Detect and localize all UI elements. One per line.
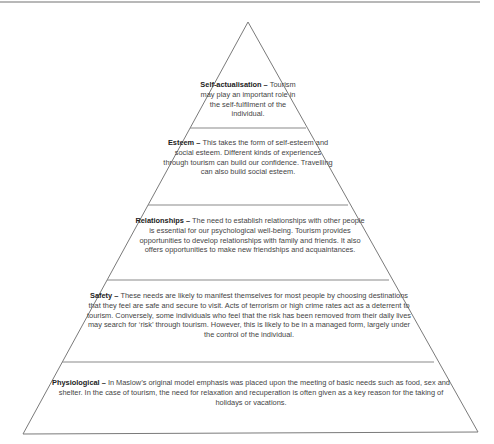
tier-relationships: Relationships – The need to establish re… [132,216,368,255]
tier-esteem: Esteem – This takes the form of self-est… [162,138,334,177]
tier-label: Safety [90,291,112,300]
tier-text: These needs are likely to manifest thems… [87,291,411,339]
tier-text: In Maslow’s original model emphasis was … [59,378,450,407]
tier-physiological: Physiological – In Maslow’s original mod… [46,378,456,407]
tier-label: Physiological [52,378,100,387]
tier-label: Relationships [135,216,183,225]
tier-separator: – [100,378,108,387]
tier-separator: – [184,216,192,225]
tier-label: Self-actualisation [200,80,261,89]
tier-separator: – [262,80,270,89]
tier-label: Esteem [168,138,194,147]
tier-self-actualisation: Self-actualisation – Tourism may play an… [198,80,298,119]
tier-safety: Safety – These needs are likely to manif… [86,291,412,340]
